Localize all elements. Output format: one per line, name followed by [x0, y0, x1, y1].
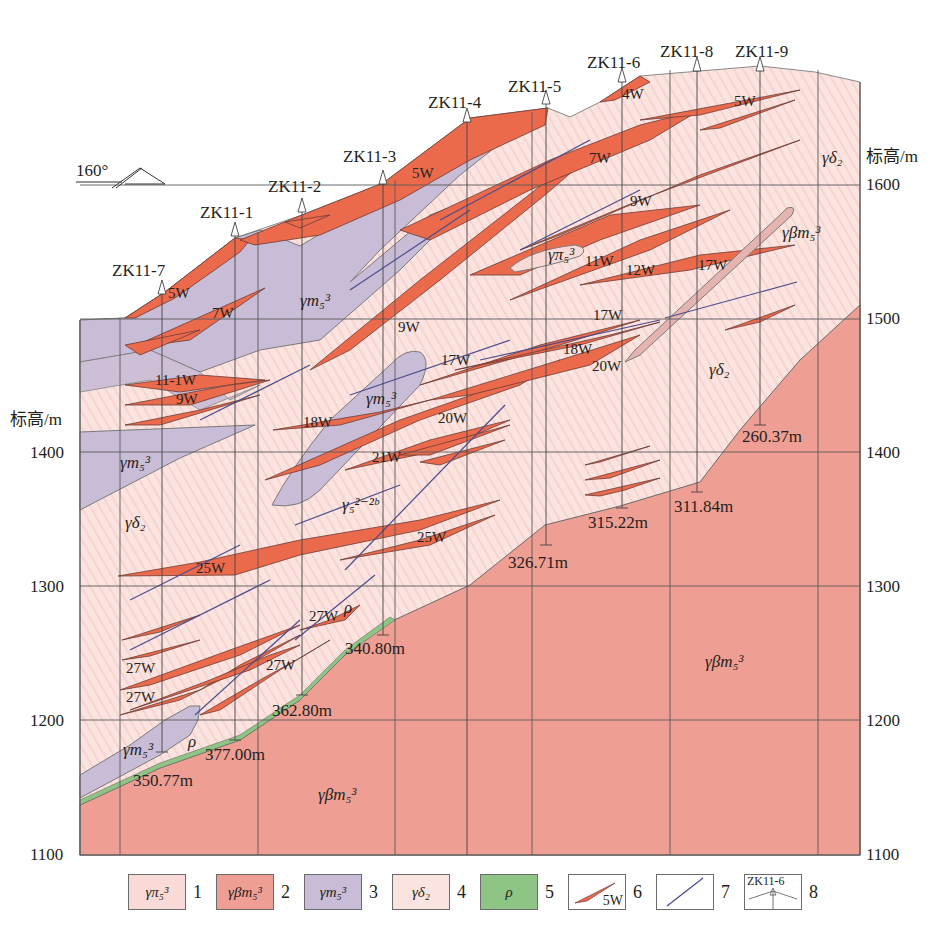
vein-label: 9W: [176, 391, 199, 407]
legend-number: 2: [281, 882, 290, 903]
vein-label: 18W: [303, 414, 333, 430]
left-tick-1400: 1400: [30, 443, 64, 462]
unit-label: γπ₅³: [548, 245, 575, 264]
vein-label: 7W: [212, 305, 235, 321]
vein-label: 5W: [168, 285, 191, 301]
orientation-indicator: 160°: [76, 161, 165, 188]
unit-label: γδ₂: [822, 148, 843, 167]
unit-label: γm₅³: [300, 291, 331, 310]
vein-label: 27W: [309, 608, 339, 624]
depth-label: 260.37m: [742, 427, 802, 446]
legend-number: 1: [193, 882, 202, 903]
dike-line-icon: [657, 875, 713, 909]
legend-borehole-sample: ZK11-6: [747, 874, 785, 889]
depth-label: 350.77m: [133, 771, 193, 790]
left-axis: 标高/m 1400 1300 1200 1100: [10, 410, 64, 864]
depth-label: 377.00m: [205, 745, 265, 764]
vein-label: 27W: [266, 657, 296, 673]
borehole-collar-icon: [298, 198, 306, 212]
unit-label: γβm₅³: [705, 652, 744, 671]
legend-number: 4: [457, 882, 466, 903]
vein-label: 4W: [622, 86, 645, 102]
borehole-label: ZK11-8: [660, 42, 713, 61]
depth-label: 311.84m: [674, 497, 733, 516]
vein-label: 9W: [398, 319, 421, 335]
unit-label: γm₅³: [120, 453, 151, 472]
legend-number: 5: [545, 882, 554, 903]
legend-number: 6: [633, 882, 642, 903]
right-tick-1400: 1400: [866, 443, 900, 462]
legend-swatch-borehole: ZK11-6: [744, 874, 802, 910]
borehole-label: ZK11-2: [268, 177, 321, 196]
vein-label: 5W: [734, 93, 757, 109]
borehole-collar-icon: [379, 170, 387, 184]
unit-label: γ₅²⁻²ᵇ: [342, 495, 380, 514]
borehole-label: ZK11-1: [200, 203, 253, 222]
vein-label: 11-1W: [155, 372, 197, 388]
borehole-label: ZK11-3: [343, 147, 396, 166]
left-tick-1100: 1100: [30, 845, 63, 864]
legend-swatch-dike-line: [656, 874, 714, 910]
unit-label: ρ: [187, 732, 196, 751]
legend-item-dike-line: 7: [656, 874, 738, 910]
borehole-collar-icon: [231, 222, 239, 236]
vein-label: 12W: [626, 262, 656, 278]
right-tick-1300: 1300: [866, 577, 900, 596]
vein-label: 5W: [412, 165, 435, 181]
cross-section-diagram: ZK11-7ZK11-1ZK11-2ZK11-3ZK11-4ZK11-5ZK11…: [0, 0, 932, 927]
legend-item-gamma-beta-m: γβm₅³ 2: [216, 874, 298, 910]
vein-label: 27W: [126, 689, 156, 705]
legend-item-ore-vein: 5W 6: [568, 874, 650, 910]
vein-label: 17W: [441, 352, 471, 368]
vein-label: 9W: [630, 193, 653, 209]
legend-item-gamma-delta: γδ₂ 4: [392, 874, 474, 910]
legend-swatch-gamma-beta-m: γβm₅³: [216, 874, 274, 910]
vein-label: 17W: [593, 307, 623, 323]
unit-label: γβm₅³: [782, 223, 821, 242]
vein-label: 20W: [438, 410, 468, 426]
right-tick-1500: 1500: [866, 309, 900, 328]
borehole-label: ZK11-4: [428, 93, 482, 112]
borehole-label: ZK11-5: [508, 77, 561, 96]
legend-item-gamma-m: γm₅³ 3: [304, 874, 386, 910]
depth-label: 326.71m: [508, 553, 568, 572]
vein-label: 27W: [126, 660, 156, 676]
legend-swatch-ore-vein: 5W: [568, 874, 626, 910]
legend-swatch-gamma-pi: γπ₅³: [128, 874, 186, 910]
right-tick-1200: 1200: [866, 711, 900, 730]
unit-label: ρ: [343, 598, 352, 617]
unit-label: γm₅³: [123, 740, 154, 759]
legend-swatch-gamma-delta: γδ₂: [392, 874, 450, 910]
legend-number: 3: [369, 882, 378, 903]
vein-label: 25W: [417, 529, 447, 545]
vein-label: 11W: [585, 253, 614, 269]
legend-number: 8: [809, 882, 818, 903]
left-tick-1300: 1300: [30, 577, 64, 596]
unit-label: γβm₅³: [318, 785, 357, 804]
legend-swatch-gamma-m: γm₅³: [304, 874, 362, 910]
vein-label: 25W: [196, 560, 226, 576]
vein-label: 7W: [589, 150, 612, 166]
depth-label: 340.80m: [345, 639, 405, 658]
left-axis-title: 标高/m: [10, 410, 62, 429]
borehole-label: ZK11-7: [112, 261, 166, 280]
depth-label: 362.80m: [272, 701, 332, 720]
left-tick-1200: 1200: [30, 711, 64, 730]
right-tick-1100: 1100: [866, 845, 899, 864]
right-axis: 标高/m 1600 1500 1400 1300 1200 1100: [866, 147, 918, 864]
legend-item-borehole: ZK11-6 8: [744, 874, 826, 910]
legend: γπ₅³ 1 γβm₅³ 2 γm₅³ 3 γδ₂ 4 ρ 5 5W 6 7: [128, 872, 832, 912]
right-tick-1600: 1600: [866, 175, 900, 194]
borehole-label: ZK11-6: [587, 53, 640, 72]
legend-item-gamma-pi: γπ₅³ 1: [128, 874, 210, 910]
right-axis-title: 标高/m: [866, 147, 918, 166]
legend-number: 7: [721, 882, 730, 903]
legend-swatch-rho: ρ: [480, 874, 538, 910]
depth-label: 315.22m: [588, 513, 648, 532]
unit-label: γδ₂: [125, 513, 146, 532]
orientation-label: 160°: [76, 161, 108, 180]
unit-label: γδ₂: [709, 360, 730, 379]
vein-label: 20W: [592, 358, 622, 374]
borehole-collar-icon: [158, 280, 166, 294]
vein-label: 17W: [698, 257, 728, 273]
